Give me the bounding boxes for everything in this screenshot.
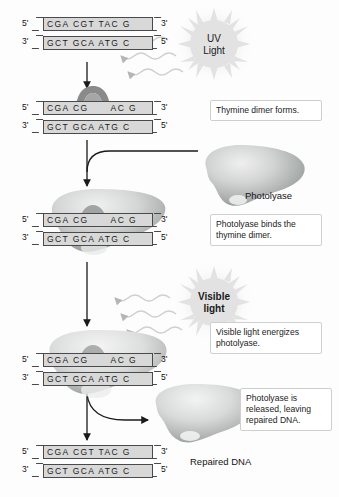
dna-intact-top-strand: CGA CGT TAC G [43,17,153,31]
dna-energized: 5' 3' 3' 5' CGA CG AC G GCT GCA ATG C [38,352,153,386]
dna-repaired: 5' 3' 3' 5' CGA CGT TAC G GCT GCA ATG C [38,444,153,478]
photolyase-label: Photolyase [245,190,292,201]
photolyase-repair-diagram: 5' 3' 3' 5' CGA CGT TAC G GCT GCA ATG C [0,0,339,497]
dna-bound-end-5prime-left: 5' [22,214,28,224]
visible-light-label: Visible light [176,291,252,314]
dna-repaired-end-3prime-right: 3' [161,446,167,456]
dna-photolyase-bound: 5' 3' 3' 5' CGA CG AC G GCT GCA ATG C [38,212,153,246]
dna-intact-end-3prime-right: 3' [161,18,167,28]
dna-dimer-end-3prime-left: 3' [22,120,28,130]
dna-energized-end-5prime-right: 5' [161,372,167,382]
dna-bound-end-3prime-right: 3' [161,214,167,224]
visible-light-line2: light [176,302,252,314]
dna-dimer-formed: 5' 3' 3' 5' CGA CG AC G GCT GCA ATG C [38,100,153,134]
uv-light-burst: UV Light [176,6,252,82]
callout-photolyase-released: Photolyase is released, leaving repaired… [240,388,332,431]
dna-dimer-top-strand: CGA CG AC G [43,101,153,115]
dna-repaired-bottom-strand: GCT GCA ATG C [43,464,153,478]
uv-light-label: UV Light [176,33,252,56]
uv-light-line1: UV [176,33,252,45]
callout-dimer-forms: Thymine dimer forms. [210,100,322,121]
dna-dimer-end-5prime-right: 5' [161,120,167,130]
dna-intact-bottom-strand: GCT GCA ATG C [43,36,153,50]
repaired-dna-label: Repaired DNA [190,456,251,467]
dna-energized-bottom-strand: GCT GCA ATG C [43,372,153,386]
dna-energized-top-strand: CGA CG AC G [43,353,153,367]
dna-repaired-end-5prime-right: 5' [161,464,167,474]
visible-light-line1: Visible [176,291,252,303]
dna-energized-end-3prime-right: 3' [161,354,167,364]
dna-bound-end-3prime-left: 3' [22,232,28,242]
dna-bound-top-strand: CGA CG AC G [43,213,153,227]
dna-repaired-end-3prime-left: 3' [22,464,28,474]
dna-bound-bottom-strand: GCT GCA ATG C [43,232,153,246]
dna-intact-end-5prime-left: 5' [22,18,28,28]
callout-light-energizes: Visible light energizes photolyase. [210,322,322,354]
dna-dimer-bottom-strand: GCT GCA ATG C [43,120,153,134]
dna-energized-end-5prime-left: 5' [22,354,28,364]
dna-dimer-end-5prime-left: 5' [22,102,28,112]
dna-repaired-top-strand: CGA CGT TAC G [43,445,153,459]
dna-bound-end-5prime-right: 5' [161,232,167,242]
uv-light-line2: Light [176,44,252,56]
callout-photolyase-binds: Photolyase binds the thymine dimer. [210,214,322,246]
dna-repaired-end-5prime-left: 5' [22,446,28,456]
dna-intact-end-3prime-left: 3' [22,36,28,46]
dna-energized-end-3prime-left: 3' [22,372,28,382]
dna-dimer-end-3prime-right: 3' [161,102,167,112]
dna-intact: 5' 3' 3' 5' CGA CGT TAC G GCT GCA ATG C [38,16,153,50]
dna-intact-end-5prime-right: 5' [161,36,167,46]
